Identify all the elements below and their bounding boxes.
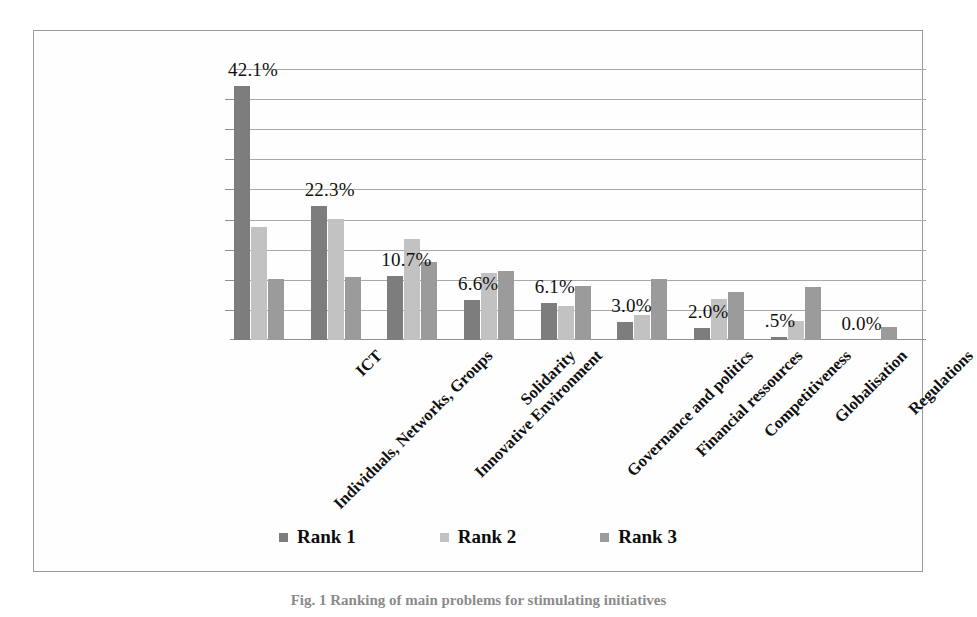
data-label: 6.1%: [535, 276, 575, 298]
bar-group: 6.1%: [541, 69, 618, 340]
bar-3[interactable]: [268, 279, 284, 340]
bar-2[interactable]: [251, 227, 267, 340]
bar-3[interactable]: [345, 277, 361, 340]
y-axis-tick: [225, 129, 234, 130]
figure-caption: Fig. 1 Ranking of main problems for stim…: [0, 592, 957, 614]
bar-group: 0.0%: [847, 69, 924, 340]
data-label: 0.0%: [841, 313, 881, 335]
y-axis-tick: [225, 159, 234, 160]
bar-3[interactable]: [498, 271, 514, 340]
y-axis-tick: [225, 250, 234, 251]
x-axis-label: ICT: [351, 346, 386, 381]
y-axis-tick: [225, 189, 234, 190]
bar-3[interactable]: [651, 279, 667, 340]
bar-group: 3.0%: [617, 69, 694, 340]
y-axis-tick: [225, 99, 234, 100]
bar-2[interactable]: [634, 315, 650, 340]
rank1-swatch-icon: [279, 533, 288, 542]
rank3-swatch-icon: [600, 533, 609, 542]
bar-3[interactable]: [728, 292, 744, 340]
bar-3[interactable]: [881, 327, 897, 340]
legend-label-rank-2: Rank 2: [458, 526, 517, 548]
legend-item-rank-1[interactable]: Rank 1: [279, 526, 356, 548]
bar-1[interactable]: [387, 276, 403, 340]
y-axis-tick: [225, 220, 234, 221]
bar-1[interactable]: [464, 300, 480, 340]
bar-groups: 42.1%22.3%10.7%6.6%6.1%3.0%2.0%.5%0.0%: [234, 69, 924, 340]
bar-group: 2.0%: [694, 69, 771, 340]
bar-1[interactable]: [771, 337, 787, 340]
bar-group: 22.3%: [311, 69, 388, 340]
data-label: 10.7%: [381, 249, 431, 271]
bar-2[interactable]: [558, 306, 574, 340]
bar-1[interactable]: [311, 206, 327, 340]
bar-1[interactable]: [694, 328, 710, 340]
bar-3[interactable]: [421, 262, 437, 340]
bar-3[interactable]: [805, 287, 821, 340]
legend-item-rank-2[interactable]: Rank 2: [440, 526, 517, 548]
bar-group: 10.7%: [387, 69, 464, 340]
plot-area: 42.1%22.3%10.7%6.6%6.1%3.0%2.0%.5%0.0%: [234, 69, 924, 340]
bar-group: .5%: [771, 69, 848, 340]
legend-item-rank-3[interactable]: Rank 3: [600, 526, 677, 548]
bar-1[interactable]: [617, 322, 633, 340]
bar-1[interactable]: [541, 303, 557, 340]
bar-2[interactable]: [328, 219, 344, 340]
data-label: 2.0%: [688, 301, 728, 323]
data-label: 6.6%: [458, 273, 498, 295]
data-label: .5%: [765, 310, 796, 332]
data-label: 3.0%: [611, 295, 651, 317]
legend-label-rank-1: Rank 1: [297, 526, 356, 548]
bar-1[interactable]: [234, 86, 250, 340]
data-label: 42.1%: [228, 59, 278, 81]
bar-group: 6.6%: [464, 69, 541, 340]
legend-label-rank-3: Rank 3: [618, 526, 677, 548]
x-axis-label: Regulations: [904, 346, 977, 419]
y-axis-tick: [225, 280, 234, 281]
bar-3[interactable]: [575, 286, 591, 340]
x-axis-label: Competitiveness: [760, 346, 856, 442]
rank2-swatch-icon: [440, 533, 449, 542]
data-label: 22.3%: [305, 179, 355, 201]
y-axis-tick: [225, 310, 234, 311]
chart-legend: Rank 1 Rank 2 Rank 3: [34, 526, 922, 548]
chart-frame: 42.1%22.3%10.7%6.6%6.1%3.0%2.0%.5%0.0% I…: [33, 30, 923, 572]
bar-group: 42.1%: [234, 69, 311, 340]
x-axis-label: Individuals, Networks, Groups: [330, 346, 498, 514]
